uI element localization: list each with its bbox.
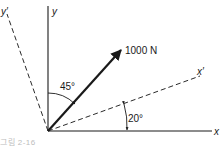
x-axis-label: x <box>213 126 220 137</box>
x-prime-label: x′ <box>196 66 205 77</box>
angle-45-label: 45° <box>60 81 75 92</box>
y-prime-label: y′ <box>0 6 9 17</box>
figure-caption: 그림 2-16 <box>0 136 36 147</box>
y-prime-axis <box>7 14 48 131</box>
force-diagram: y x x′ y′ 1000 N 45° 20° <box>0 0 222 147</box>
y-axis-label: y <box>51 6 58 17</box>
angle-arc-20 <box>124 104 127 130</box>
force-vector-arrow <box>48 50 121 131</box>
angle-20-label: 20° <box>128 113 143 124</box>
angle-arc-45 <box>48 93 75 104</box>
force-magnitude-label: 1000 N <box>125 45 157 56</box>
